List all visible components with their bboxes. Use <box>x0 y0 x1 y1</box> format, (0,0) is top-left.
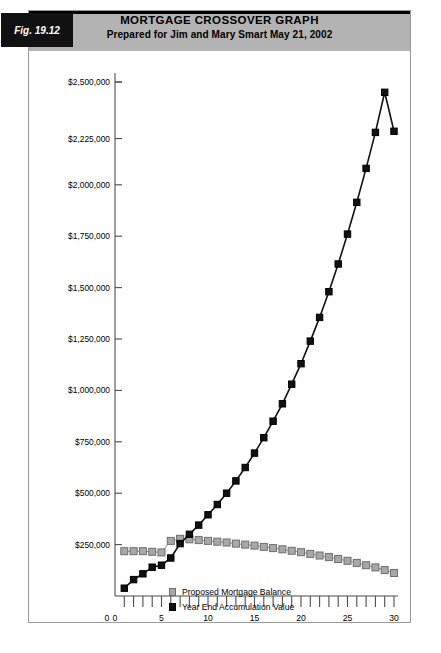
x-axis-tick-label: 15 <box>250 613 260 623</box>
data-point-marker <box>233 478 239 484</box>
data-point-marker <box>205 537 212 544</box>
data-point-marker <box>121 548 128 555</box>
data-point-marker <box>168 555 174 561</box>
data-point-marker <box>223 490 229 496</box>
data-point-marker <box>344 557 351 564</box>
data-point-marker <box>289 381 295 387</box>
series-layer <box>121 89 398 591</box>
y-axis-tick-label: $2,000,000 <box>68 180 110 190</box>
series-line <box>124 92 394 588</box>
data-point-marker <box>195 537 202 544</box>
y-axis-tick-label: $1,250,000 <box>68 334 110 344</box>
data-point-marker <box>335 261 341 267</box>
y-axis-tick-label: $1,000,000 <box>68 385 110 395</box>
x-axis-tick-label: 10 <box>203 613 213 623</box>
data-point-marker <box>354 199 360 205</box>
data-point-marker <box>326 289 332 295</box>
data-point-marker <box>372 564 379 571</box>
x-axis-tick-label: 30 <box>389 613 399 623</box>
data-point-marker <box>261 435 267 441</box>
black-square-marker-icon <box>169 603 176 611</box>
x-axis-tick-label: 20 <box>296 613 306 623</box>
data-point-marker <box>242 464 248 470</box>
data-point-marker <box>186 531 192 537</box>
data-point-marker <box>381 567 388 574</box>
figure-container: Fig. 19.12 MORTGAGE CROSSOVER GRAPH Prep… <box>28 10 411 623</box>
data-point-marker <box>196 522 202 528</box>
data-point-marker <box>251 542 258 549</box>
data-point-marker <box>363 562 370 569</box>
data-point-marker <box>214 501 220 507</box>
data-point-marker <box>149 564 155 570</box>
data-point-marker <box>288 547 295 554</box>
data-point-marker <box>298 549 305 556</box>
data-point-marker <box>391 128 397 134</box>
data-point-marker <box>167 537 174 544</box>
data-point-marker <box>344 231 350 237</box>
data-point-marker <box>382 89 388 95</box>
y-axis-tick-label: $2,225,000 <box>68 134 110 144</box>
data-point-marker <box>316 314 322 320</box>
y-axis: $250,000$500,000$750,000$1,000,000$1,250… <box>68 73 122 596</box>
data-point-marker <box>232 540 239 547</box>
data-point-marker <box>223 539 230 546</box>
data-point-marker <box>130 576 136 582</box>
plot-area: $250,000$500,000$750,000$1,000,000$1,250… <box>29 51 412 623</box>
data-point-marker <box>279 401 285 407</box>
y-axis-tick-label: $1,500,000 <box>68 283 110 293</box>
data-point-marker <box>298 361 304 367</box>
data-point-marker <box>353 559 360 566</box>
data-point-marker <box>149 548 156 555</box>
data-point-marker <box>391 570 398 577</box>
data-point-marker <box>270 418 276 424</box>
y-axis-tick-label: $750,000 <box>75 437 110 447</box>
data-point-marker <box>158 562 164 568</box>
y-axis-tick-label: $1,750,000 <box>68 231 110 241</box>
data-point-marker <box>140 571 146 577</box>
y-axis-tick-label: $500,000 <box>75 488 110 498</box>
data-point-marker <box>214 538 221 545</box>
x-axis-tick-label: 5 <box>159 613 164 623</box>
data-point-marker <box>139 548 146 555</box>
x-axis-tick-label: 0 <box>113 613 118 623</box>
legend-label: Year End Accumulation Value <box>182 602 294 612</box>
legend-item-year-end-accumulation-value: Year End Accumulation Value <box>169 599 294 614</box>
data-point-marker <box>130 548 137 555</box>
gray-square-marker-icon <box>169 588 176 596</box>
data-point-marker <box>307 550 314 557</box>
title-block: MORTGAGE CROSSOVER GRAPH Prepared for Ji… <box>29 13 410 42</box>
data-point-marker <box>335 556 342 563</box>
legend-item-proposed-mortgage-balance: Proposed Mortgage Balance <box>169 584 294 599</box>
data-point-marker <box>251 450 257 456</box>
data-point-marker <box>307 338 313 344</box>
chart-legend: Proposed Mortgage Balance Year End Accum… <box>169 584 294 614</box>
data-point-marker <box>316 552 323 559</box>
figure-number-label: Fig. 19.12 <box>14 25 60 36</box>
data-point-marker <box>325 554 332 561</box>
data-point-marker <box>121 585 127 591</box>
data-point-marker <box>205 512 211 518</box>
y-axis-tick-label: $2,500,000 <box>68 77 110 87</box>
data-point-marker <box>279 546 286 553</box>
data-point-marker <box>260 543 267 550</box>
data-point-marker <box>363 165 369 171</box>
x-axis-origin-label: 0 <box>105 613 110 623</box>
data-point-marker <box>372 129 378 135</box>
data-point-marker <box>270 545 277 552</box>
x-axis-tick-label: 25 <box>343 613 353 623</box>
data-point-marker <box>177 540 183 546</box>
chart-title: MORTGAGE CROSSOVER GRAPH <box>29 13 410 28</box>
legend-label: Proposed Mortgage Balance <box>182 587 291 597</box>
figure-number-tag: Fig. 19.12 <box>1 13 73 47</box>
data-point-marker <box>242 541 249 548</box>
y-axis-tick-label: $250,000 <box>75 540 110 550</box>
chart-svg: $250,000$500,000$750,000$1,000,000$1,250… <box>29 51 412 623</box>
data-point-marker <box>158 549 165 556</box>
chart-subtitle: Prepared for Jim and Mary Smart May 21, … <box>29 28 410 42</box>
